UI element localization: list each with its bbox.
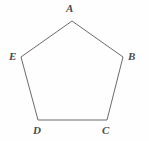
vertex-label-b: B <box>128 51 135 62</box>
geometry-figure: A B C D E <box>0 0 149 141</box>
vertex-label-d: D <box>33 125 41 136</box>
pentagon-outline <box>21 21 123 120</box>
vertex-label-c: C <box>102 125 109 136</box>
vertex-label-a: A <box>66 3 73 14</box>
vertex-label-e: E <box>9 51 16 62</box>
pentagon-shape <box>0 0 149 141</box>
